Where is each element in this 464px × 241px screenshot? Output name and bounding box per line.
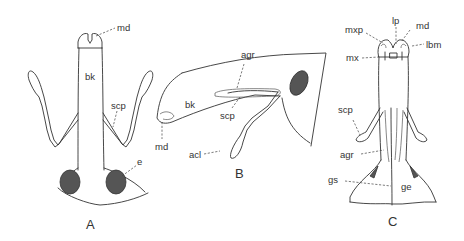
label-lbm-c: lbm — [426, 39, 441, 50]
beak-outline-b — [157, 73, 280, 123]
label-agr-b: agr — [241, 49, 255, 60]
beak-outline-a — [78, 48, 104, 170]
label-acl-b: acl — [189, 149, 201, 160]
leader-mx-c — [362, 57, 379, 58]
leader-acl-b — [204, 151, 220, 154]
eye-b — [286, 68, 311, 98]
antennal-groove-right-c — [399, 110, 403, 162]
label-bk-a: bk — [85, 71, 95, 82]
panel-b: agr bk scp md acl B — [155, 49, 326, 181]
leader-md-a — [96, 28, 115, 36]
label-md-b: md — [155, 141, 168, 152]
mandible-b — [160, 112, 174, 120]
label-md-c: md — [416, 20, 429, 31]
label-scp-b: scp — [220, 110, 235, 121]
leader-scp-a — [113, 111, 117, 127]
gular-line-c — [395, 108, 397, 160]
scape-b — [228, 91, 278, 93]
eye-left-a — [60, 170, 80, 194]
panel-label-b: B — [235, 166, 244, 181]
leader-gs-c — [345, 181, 391, 186]
eye-right-c — [410, 166, 418, 178]
panel-label-a: A — [86, 217, 95, 232]
label-gs-c: gs — [328, 174, 338, 185]
beak-outline-c — [379, 57, 409, 160]
eye-right-a — [106, 170, 126, 194]
leader-lbm-c — [412, 44, 424, 46]
head-capsule-b — [182, 53, 326, 146]
label-scp-a: scp — [111, 100, 126, 111]
label-md-a: md — [117, 22, 130, 33]
leader-md-c — [401, 30, 410, 42]
leader-agr-b — [237, 64, 244, 88]
panel-label-c: C — [388, 214, 397, 229]
leader-scp-b — [232, 97, 240, 108]
antenna-left-a — [28, 71, 78, 147]
antennal-groove-left-c — [385, 110, 389, 162]
leader-e-a — [122, 165, 137, 176]
label-scp-c: scp — [338, 104, 353, 115]
leader-scp-c — [353, 120, 360, 135]
antennal-groove-b — [215, 89, 280, 98]
label-agr-c: agr — [340, 149, 354, 160]
panel-c: lp mxp md lbm mx scp agr gs ge C — [328, 15, 441, 229]
label-lp-c: lp — [392, 15, 399, 26]
leader-mxp-c — [366, 33, 383, 43]
label-mxp-c: mxp — [345, 24, 363, 35]
label-e-a: e — [137, 156, 142, 167]
antenna-b — [230, 92, 280, 158]
head-capsule-c — [350, 160, 436, 204]
label-bk-b: bk — [185, 99, 195, 110]
label-ge-c: ge — [401, 181, 412, 192]
panel-a: md bk scp e A — [28, 22, 153, 232]
gular-suture-c — [391, 108, 392, 205]
label-mx-c: mx — [346, 52, 359, 63]
mandibles-a — [78, 33, 102, 48]
weevil-head-anatomy-figure: md bk scp e A agr bk scp md acl B — [0, 0, 464, 241]
